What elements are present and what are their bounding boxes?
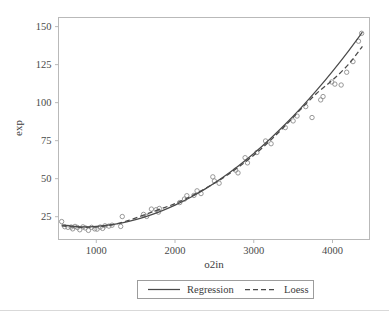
- y-axis-title: exp: [12, 120, 24, 136]
- y-tick-label: 75: [41, 135, 52, 146]
- x-axis-title: o2in: [204, 258, 224, 270]
- y-tick-label: 25: [41, 211, 52, 222]
- y-tick-label: 125: [36, 59, 52, 70]
- y-tick-label: 50: [41, 173, 52, 184]
- legend: Regression Loess: [138, 281, 314, 299]
- legend-label-regression: Regression: [187, 284, 234, 295]
- chart-figure: 255075100125150 1000200030004000 o2in ex…: [0, 0, 389, 313]
- x-tick-label: 3000: [243, 245, 264, 256]
- y-tick-label: 100: [36, 97, 52, 108]
- scatter-plot-svg: 255075100125150 1000200030004000 o2in ex…: [0, 0, 389, 313]
- x-tick-label: 2000: [165, 245, 186, 256]
- x-tick-label: 4000: [322, 245, 343, 256]
- x-tick-label: 1000: [86, 245, 107, 256]
- y-tick-label: 150: [36, 21, 52, 32]
- legend-label-loess: Loess: [284, 284, 309, 295]
